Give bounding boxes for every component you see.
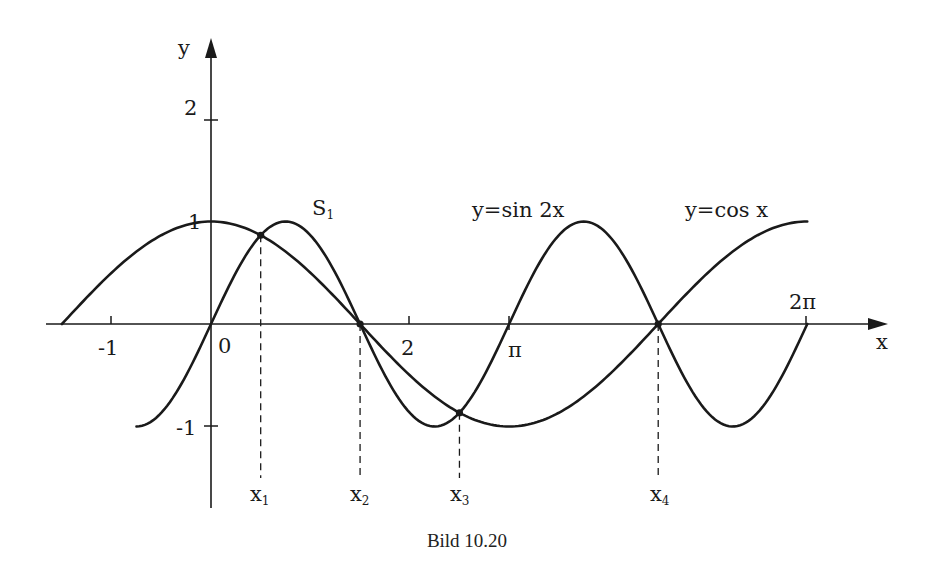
tick-label-pi: π [508, 340, 522, 361]
intersection-point-x4 [655, 320, 662, 327]
intersection-point-x3 [456, 409, 463, 416]
figure-caption: Bild 10.20 [0, 530, 934, 552]
intersection-point-x2 [356, 320, 363, 327]
x4-subscript: 4 [662, 494, 670, 508]
x2-subscript: 2 [362, 494, 370, 508]
intersection-drop-lines [261, 235, 659, 478]
x3-text: x [450, 482, 462, 506]
x4-label: x4 [650, 484, 669, 507]
intersection-point-x1 [257, 232, 264, 239]
sin-2x-label: y=sin 2x [472, 200, 564, 221]
s1-subscript: 1 [326, 208, 334, 222]
tick-label-neg1-y: -1 [176, 418, 196, 439]
x2-label: x2 [350, 484, 369, 507]
x3-label: x3 [450, 484, 469, 507]
y-axis-arrow-icon [205, 38, 217, 58]
tick-label-2-y: 2 [184, 98, 197, 119]
tick-label-neg1-x: -1 [98, 338, 118, 359]
x-axis-label: x [876, 332, 888, 353]
s1-label: S1 [312, 198, 334, 221]
x-ticks [111, 316, 806, 330]
x1-text: x [250, 482, 262, 506]
tick-label-1-y: 1 [188, 212, 201, 233]
s1-text: S [312, 196, 326, 220]
x-axis-arrow-icon [868, 318, 888, 330]
x3-subscript: 3 [462, 494, 470, 508]
tick-label-0: 0 [218, 336, 231, 357]
cos-x-label: y=cos x [685, 200, 768, 221]
x4-text: x [650, 482, 662, 506]
x1-label: x1 [250, 484, 269, 507]
y-axis-label: y [178, 38, 190, 59]
tick-label-2-x: 2 [401, 338, 414, 359]
x1-subscript: 1 [262, 494, 270, 508]
x2-text: x [350, 482, 362, 506]
tick-label-2pi: 2π [789, 292, 816, 313]
